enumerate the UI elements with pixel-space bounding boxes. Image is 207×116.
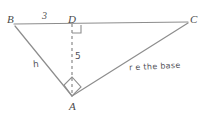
vertex-label-d: D xyxy=(68,14,76,25)
altitude-length-label: 5 xyxy=(75,52,81,61)
vertex-label-b: B xyxy=(7,14,14,25)
segment-bc xyxy=(14,22,188,24)
vertex-label-c: C xyxy=(190,14,197,25)
segment-ba xyxy=(15,26,72,96)
segment-ac xyxy=(72,23,188,96)
geometry-figure: B D C A 3 5 h r e the base xyxy=(0,0,207,116)
segment-length-label-bd: 3 xyxy=(42,11,47,21)
leg-label-h: h xyxy=(33,60,39,69)
diagram-canvas xyxy=(0,0,207,116)
vertex-label-a: A xyxy=(69,101,76,112)
right-angle-mark-d xyxy=(72,25,81,33)
